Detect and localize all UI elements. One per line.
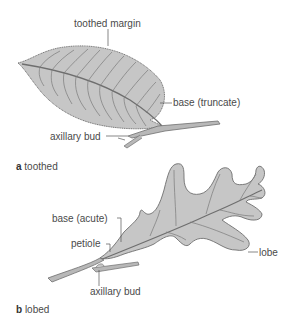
toothed-leaf	[18, 29, 220, 148]
label-axillary-bud-b: axillary bud	[90, 286, 141, 298]
caption-a-text: toothed	[24, 161, 57, 172]
label-axillary-bud-a: axillary bud	[50, 131, 101, 143]
label-base-truncate: base (truncate)	[173, 97, 240, 109]
label-toothed-margin: toothed margin	[74, 18, 141, 30]
caption-b: b lobed	[16, 304, 49, 316]
caption-b-letter: b	[16, 304, 22, 315]
label-base-acute: base (acute)	[52, 213, 108, 225]
leaf-diagram: toothed margin base (truncate) axillary …	[0, 0, 304, 322]
caption-b-text: lobed	[25, 304, 49, 315]
label-lobe: lobe	[259, 247, 278, 259]
caption-a-letter: a	[16, 161, 22, 172]
label-petiole: petiole	[71, 238, 100, 250]
caption-a: a toothed	[16, 161, 58, 173]
